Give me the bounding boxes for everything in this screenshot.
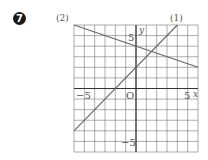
x-tick-pos5: 5 (184, 90, 190, 101)
y-axis-label: y (138, 25, 145, 35)
y-tick-neg5: −5 (121, 137, 136, 148)
line-2-label: (2) (56, 13, 69, 23)
y-tick-pos5: 5 (128, 32, 134, 43)
origin-label: O (126, 90, 134, 101)
coordinate-graph: (2) (1) y x O −5 5 5 −5 (0, 0, 208, 160)
axes (74, 25, 198, 152)
x-axis-label: x (193, 89, 198, 99)
x-tick-neg5: −5 (76, 90, 91, 101)
line-1-label: (1) (170, 13, 183, 23)
